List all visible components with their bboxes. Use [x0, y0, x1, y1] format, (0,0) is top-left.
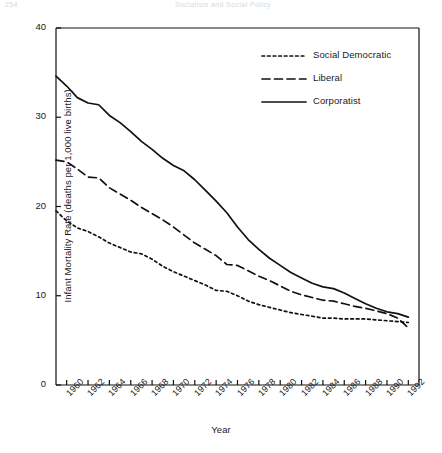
y-tick-label: 20 [22, 200, 46, 211]
series-line-liberal [56, 160, 408, 328]
y-tick-label: 10 [22, 289, 46, 300]
axes-frame [56, 28, 419, 385]
y-tick-label: 0 [22, 378, 46, 389]
line-chart: Infant Mortality Rate (deaths per 1,000 … [0, 0, 442, 453]
y-axis-ticks [56, 28, 61, 385]
legend-label-liberal: Liberal [313, 72, 342, 83]
legend-label-social-democratic: Social Democratic [313, 49, 391, 60]
y-tick-label: 40 [22, 21, 46, 32]
y-tick-label: 30 [22, 110, 46, 121]
x-axis-label: Year [0, 424, 442, 435]
legend-sample-lines [262, 56, 306, 102]
series-line-corporatist [56, 76, 408, 317]
data-series-layer [56, 76, 408, 328]
legend-label-corporatist: Corporatist [313, 95, 361, 106]
y-axis-label: Infant Mortality Rate (deaths per 1,000 … [62, 93, 73, 303]
